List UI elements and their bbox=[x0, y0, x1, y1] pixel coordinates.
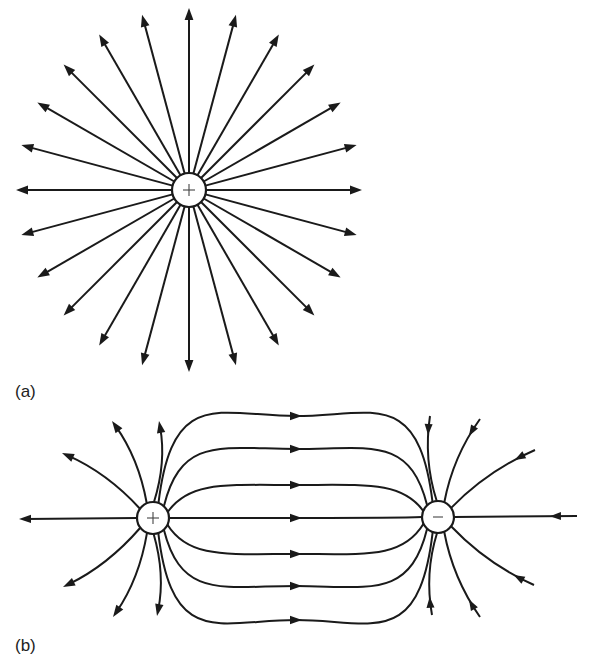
field-line bbox=[198, 205, 276, 341]
field-line bbox=[25, 518, 137, 519]
arrowhead-icon bbox=[155, 603, 163, 616]
arrowhead-icon bbox=[515, 451, 527, 460]
arrowhead-icon bbox=[269, 34, 279, 47]
arrowhead-icon bbox=[113, 605, 123, 617]
field-line bbox=[444, 419, 480, 502]
field-line bbox=[68, 528, 140, 585]
arrowhead-icon bbox=[425, 424, 433, 435]
field-line bbox=[43, 105, 175, 181]
arrowhead-icon bbox=[141, 352, 150, 365]
arrowhead-icon bbox=[469, 600, 478, 612]
arrowhead-icon bbox=[550, 512, 561, 520]
panel-b-dipole bbox=[19, 412, 577, 624]
arrowhead-icon bbox=[514, 575, 526, 584]
arrowhead-icon bbox=[229, 352, 238, 365]
arrowhead-icon bbox=[157, 421, 165, 434]
field-line bbox=[204, 105, 336, 181]
arrowhead-icon bbox=[63, 578, 76, 587]
arrowhead-icon bbox=[290, 550, 302, 558]
arrowhead-icon bbox=[62, 453, 75, 462]
arrowhead-icon bbox=[328, 268, 341, 278]
dipole-field-line bbox=[158, 532, 432, 623]
arrowhead-icon bbox=[344, 144, 357, 153]
arrowhead-icon bbox=[141, 15, 150, 28]
negative-charge bbox=[422, 501, 454, 533]
arrowhead-icon bbox=[328, 102, 341, 112]
arrowhead-icon bbox=[99, 34, 109, 47]
arrowhead-icon bbox=[112, 421, 122, 433]
electric-field-diagram bbox=[0, 0, 592, 670]
field-line bbox=[115, 426, 146, 503]
arrowhead-icon bbox=[185, 8, 194, 20]
dipole-field-line bbox=[164, 448, 427, 506]
arrowhead-icon bbox=[229, 15, 238, 28]
field-line bbox=[444, 532, 480, 617]
arrowhead-icon bbox=[344, 228, 357, 237]
field-line bbox=[116, 533, 147, 612]
arrowhead-icon bbox=[290, 481, 302, 489]
arrowhead-icon bbox=[469, 424, 478, 436]
dipole-field-line bbox=[164, 529, 427, 587]
positive-charge bbox=[172, 173, 206, 207]
arrowhead-icon bbox=[37, 268, 50, 278]
arrowhead-icon bbox=[350, 186, 362, 195]
panel-label-b: (b) bbox=[15, 637, 36, 654]
arrowhead-icon bbox=[290, 616, 302, 624]
arrowhead-icon bbox=[21, 228, 34, 237]
arrowhead-icon bbox=[290, 514, 302, 522]
panel-label-a: (a) bbox=[15, 383, 36, 400]
field-line bbox=[198, 40, 276, 176]
arrowhead-icon bbox=[290, 582, 302, 590]
arrowhead-icon bbox=[290, 412, 302, 420]
arrowhead-icon bbox=[99, 333, 109, 346]
arrowhead-icon bbox=[16, 186, 28, 195]
field-line bbox=[204, 199, 336, 275]
field-line bbox=[102, 40, 180, 176]
field-line bbox=[102, 205, 180, 341]
dipole-field-line bbox=[167, 524, 423, 554]
arrowhead-icon bbox=[19, 515, 31, 523]
field-line bbox=[67, 455, 139, 508]
field-line bbox=[43, 199, 175, 275]
arrowhead-icon bbox=[21, 144, 34, 153]
panel-a-single-charge bbox=[16, 8, 362, 372]
positive-charge bbox=[137, 502, 169, 534]
arrowhead-icon bbox=[37, 102, 50, 112]
arrowhead-icon bbox=[290, 445, 302, 453]
dipole-field-line bbox=[168, 485, 423, 512]
dipole-connecting-field-lines bbox=[158, 412, 432, 624]
arrowhead-icon bbox=[185, 360, 194, 372]
arrowhead-icon bbox=[269, 333, 279, 346]
